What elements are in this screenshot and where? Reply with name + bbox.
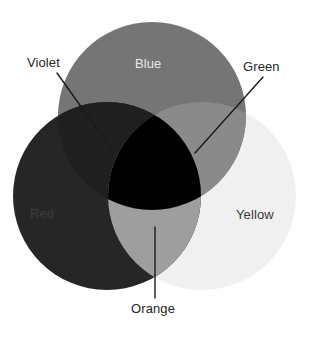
venn-diagram: Violet Blue Green Red Yellow Orange (0, 0, 309, 338)
label-violet: Violet (27, 55, 60, 70)
venn-canvas (0, 0, 309, 338)
label-red: Red (30, 206, 54, 221)
label-green: Green (243, 59, 280, 74)
label-yellow: Yellow (236, 207, 274, 222)
label-orange: Orange (131, 301, 175, 316)
label-blue: Blue (135, 56, 161, 71)
